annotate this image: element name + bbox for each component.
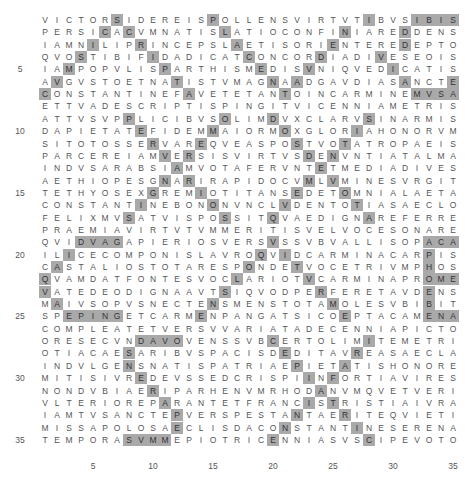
letter-cell: M [63,323,75,335]
letter-cell: F [123,273,135,285]
letter-cell: V [111,335,123,347]
letter-cell: O [279,273,291,285]
letter-cell: I [255,224,267,236]
letter-cell: V [387,14,399,26]
letter-cell: T [363,310,375,322]
letter-cell: V [339,76,351,88]
letter-cell: P [267,138,279,150]
highlighted-letter-cell: P [291,360,303,372]
letter-cell: E [387,385,399,397]
letter-cell: O [39,347,51,359]
letter-cell: E [171,434,183,446]
highlighted-letter-cell: T [171,76,183,88]
letter-cell: O [99,298,111,310]
letter-cell: T [231,51,243,63]
highlighted-letter-cell: E [135,125,147,137]
letter-cell: D [99,100,111,112]
letter-cell: C [39,261,51,273]
letter-cell: T [219,88,231,100]
letter-cell: L [195,422,207,434]
letter-cell: S [447,249,459,261]
letter-cell: I [159,162,171,174]
letter-cell: V [183,409,195,421]
letter-cell: A [135,150,147,162]
letter-cell: D [303,187,315,199]
highlighted-letter-cell: P [159,63,171,75]
letter-cell: A [291,323,303,335]
highlighted-letter-cell: A [447,236,459,248]
letter-cell: A [219,125,231,137]
letter-cell: O [219,14,231,26]
letter-cell: E [447,224,459,236]
letter-cell: E [399,422,411,434]
highlighted-letter-cell: S [75,51,87,63]
letter-cell: N [387,113,399,125]
letter-cell: I [303,347,315,359]
letter-cell: N [267,187,279,199]
letter-cell: I [195,175,207,187]
letter-cell: F [39,212,51,224]
letter-cell: M [147,150,159,162]
letter-cell: G [339,212,351,224]
letter-cell: E [51,212,63,224]
letter-cell: T [303,162,315,174]
letter-cell: L [327,335,339,347]
letter-cell: P [399,323,411,335]
highlighted-letter-cell: A [399,76,411,88]
letter-cell: N [159,26,171,38]
letter-cell: M [351,273,363,285]
letter-cell: D [351,76,363,88]
letter-cell: V [303,236,315,248]
letter-cell: N [159,286,171,298]
letter-cell: O [267,175,279,187]
letter-cell: G [303,125,315,137]
highlighted-letter-cell: O [423,273,435,285]
letter-cell: S [87,372,99,384]
letter-cell: P [423,39,435,51]
letter-cell: V [123,224,135,236]
letter-cell: C [231,372,243,384]
highlighted-letter-cell: M [159,434,171,446]
letter-cell: A [135,347,147,359]
letter-cell: E [327,409,339,421]
letter-cell: T [39,434,51,446]
letter-cell: V [123,298,135,310]
letter-cell: A [411,63,423,75]
letter-cell: A [327,113,339,125]
letter-cell: S [387,76,399,88]
letter-cell: T [207,286,219,298]
letter-cell: R [255,397,267,409]
letter-cell: V [219,249,231,261]
letter-cell: A [423,224,435,236]
letter-cell: O [411,125,423,137]
letter-cell: C [39,199,51,211]
highlighted-letter-cell: N [99,310,111,322]
letter-cell: E [423,26,435,38]
letter-cell: N [411,76,423,88]
letter-cell: M [423,113,435,125]
letter-cell: T [399,150,411,162]
letter-cell: V [219,138,231,150]
letter-cell: T [303,335,315,347]
letter-cell: A [399,113,411,125]
letter-cell: O [291,88,303,100]
letter-cell: E [231,88,243,100]
letter-cell: N [327,385,339,397]
letter-cell: L [399,187,411,199]
letter-cell: V [219,323,231,335]
letter-cell: O [111,76,123,88]
letter-cell: M [183,310,195,322]
letter-cell: T [399,385,411,397]
highlighted-letter-cell: E [267,434,279,446]
letter-cell: T [435,323,447,335]
letter-cell: T [327,14,339,26]
letter-cell: E [423,422,435,434]
highlighted-letter-cell: C [243,51,255,63]
letter-cell: I [375,88,387,100]
letter-cell: L [51,397,63,409]
highlighted-letter-cell: Q [255,249,267,261]
letter-cell: S [447,372,459,384]
letter-cell: R [207,175,219,187]
letter-cell: L [435,347,447,359]
letter-cell: A [183,261,195,273]
